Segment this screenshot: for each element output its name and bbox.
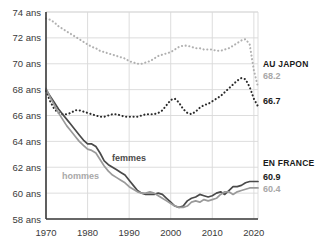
chart-background bbox=[0, 0, 317, 244]
annotation-france-title: EN FRANCE bbox=[263, 158, 315, 168]
series-inline-label-hommes: hommes bbox=[62, 171, 99, 181]
y-axis-tick-label: 68 ans bbox=[12, 84, 41, 95]
series-inline-label-femmes: femmes bbox=[112, 153, 146, 163]
x-axis-tick-label: 1970 bbox=[35, 227, 56, 238]
y-axis-tick-label: 60 ans bbox=[12, 188, 41, 199]
annotation-france-men-value: 60.4 bbox=[263, 184, 281, 194]
annotation-japan-women-value: 66.7 bbox=[263, 96, 281, 106]
chart-figure: 74 ans72 ans70 ans68 ans66 ans64 ans62 a… bbox=[0, 0, 317, 244]
y-axis-tick-label: 72 ans bbox=[12, 32, 41, 43]
y-axis-tick-labels: 74 ans72 ans70 ans68 ans66 ans64 ans62 a… bbox=[12, 7, 41, 225]
y-axis-tick-label: 66 ans bbox=[12, 110, 41, 121]
y-axis-tick-label: 70 ans bbox=[12, 58, 41, 69]
x-axis-tick-label: 2020 bbox=[243, 227, 264, 238]
x-axis-tick-label: 1980 bbox=[77, 227, 98, 238]
annotation-japan-men-value: 68.2 bbox=[263, 71, 281, 81]
x-axis-tick-label: 1990 bbox=[119, 227, 140, 238]
y-axis-tick-label: 64 ans bbox=[12, 136, 41, 147]
annotation-france-women-value: 60.9 bbox=[263, 172, 281, 182]
y-axis-tick-label: 62 ans bbox=[12, 162, 41, 173]
annotation-japan-title: AU JAPON bbox=[263, 59, 309, 69]
retirement-age-line-chart: 74 ans72 ans70 ans68 ans66 ans64 ans62 a… bbox=[0, 0, 317, 244]
x-axis-tick-label: 2010 bbox=[202, 227, 223, 238]
y-axis-tick-label: 74 ans bbox=[12, 7, 41, 18]
x-axis-tick-label: 2000 bbox=[160, 227, 181, 238]
y-axis-tick-label: 58 ans bbox=[12, 214, 41, 225]
